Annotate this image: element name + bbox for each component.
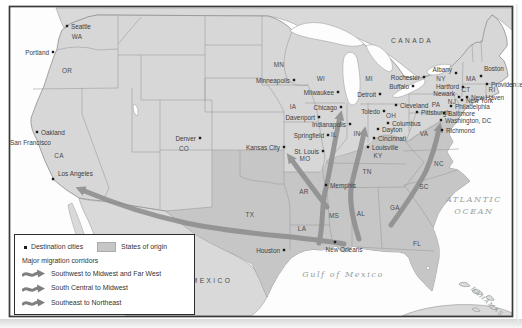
page-scan-edge	[0, 319, 522, 328]
corridor-arrow-icon	[22, 298, 46, 308]
state-label-ia: IA	[290, 103, 297, 110]
city-label-seattle: Seattle	[71, 23, 91, 30]
state-label-tn: TN	[362, 168, 371, 175]
legend-origin-label: States of origin	[121, 244, 167, 251]
city-dot-oakland	[36, 131, 38, 133]
legend-corridor-label: Southwest to Midwest and Far West	[51, 271, 161, 278]
city-dot-pittsburgh	[416, 111, 418, 113]
city-label-hartford: Hartford	[436, 83, 460, 90]
state-label-mn: MN	[274, 61, 285, 68]
city-label-indianapolis: Indianapolis	[312, 121, 346, 129]
legend-corridor-label: South Central to Midwest	[51, 285, 128, 292]
state-label-pa: PA	[432, 101, 441, 108]
city-dot-washington-dc	[440, 119, 442, 121]
city-label-cleveland: Cleveland	[400, 102, 429, 109]
city-label-new-orleans: New Orleans	[326, 246, 363, 253]
legend-corridor-item: Southeast to Northeast	[22, 298, 194, 308]
state-label-il: IL	[331, 131, 337, 138]
state-label-wi: WI	[317, 75, 325, 82]
state-label-la: LA	[298, 225, 307, 232]
city-dot-new-york	[461, 99, 463, 101]
city-dot-cincinnati	[373, 137, 375, 139]
city-dot-boston	[480, 75, 482, 77]
city-label-chicago: Chicago	[314, 104, 338, 112]
city-dot-springfield	[327, 134, 329, 136]
canada-label: CANADA	[391, 37, 433, 44]
state-label-ga: GA	[390, 204, 400, 211]
city-dot-portland	[52, 51, 54, 53]
city-dot-richmond	[441, 129, 443, 131]
city-label-toledo: Toledo	[361, 108, 380, 115]
state-label-va: VA	[420, 130, 429, 137]
atlantic-ocean-label-line2: OCEAN	[454, 207, 493, 216]
city-label-oakland: Oakland	[41, 129, 65, 136]
page-scan-edge	[516, 4, 519, 322]
city-dot-toledo	[383, 110, 385, 112]
city-label-kansas-city: Kansas City	[246, 144, 281, 152]
city-dot-hartford	[462, 86, 464, 88]
city-label-newark: Newark	[433, 90, 455, 97]
state-label-ca: CA	[54, 152, 64, 159]
state-label-in: IN	[354, 130, 361, 137]
corridor-arrow-icon	[22, 284, 46, 294]
city-dot-detroit	[379, 93, 381, 95]
city-dot-columbus	[387, 122, 389, 124]
city-dot-baltimore	[443, 112, 445, 114]
city-dot-milwaukee	[337, 91, 339, 93]
city-label-cincinnati: Cincinnati	[378, 135, 406, 142]
textbook-map-figure: WAORCACOMNWIMIIAILINOHPANYMARICTNJMOARLA…	[0, 0, 522, 328]
map-legend: Destination cities States of origin Majo…	[14, 234, 195, 315]
city-label-houston: Houston	[256, 247, 280, 254]
city-dot-kansas-city	[283, 146, 285, 148]
legend-corridor-label: Southeast to Northeast	[51, 300, 121, 307]
state-label-ms: MS	[329, 212, 339, 219]
atlantic-ocean-label-line1: ATLANTIC	[445, 195, 502, 204]
city-label-dayton: Dayton	[382, 126, 403, 134]
state-label-tx: TX	[246, 211, 255, 218]
city-label-san-francisco: San Francisco	[10, 139, 51, 146]
city-dot-memphis	[325, 184, 327, 186]
state-label-ar: AR	[299, 188, 309, 195]
city-dot-seattle	[66, 25, 68, 27]
city-label-springfield: Springfield	[294, 132, 325, 140]
destination-city-dot-icon	[24, 246, 27, 249]
corridor-arrow-icon	[22, 269, 46, 279]
city-dot-st-louis	[322, 150, 324, 152]
city-dot-new-orleans	[334, 241, 336, 243]
state-label-or: OR	[62, 67, 72, 74]
city-dot-newark	[458, 96, 460, 98]
city-dot-dayton	[377, 128, 379, 130]
city-dot-davenport	[318, 116, 320, 118]
city-dot-philadelphia	[450, 105, 452, 107]
city-dot-minneapolis	[293, 79, 295, 81]
state-label-sc: SC	[419, 183, 429, 190]
city-label-baltimore: Baltimore	[448, 110, 475, 117]
states-of-origin-swatch-icon	[97, 242, 116, 252]
state-label-mo: MO	[300, 155, 311, 162]
state-label-al: AL	[357, 210, 366, 217]
city-dot-cleveland	[395, 104, 397, 106]
city-label-richmond: Richmond	[446, 127, 475, 134]
legend-destination-label: Destination cities	[31, 244, 83, 251]
city-dot-indianapolis	[349, 123, 351, 125]
city-label-st-louis: St. Louis	[294, 148, 319, 155]
city-label-albany: Albany	[432, 66, 452, 74]
city-label-buffalo: Buffalo	[389, 83, 409, 90]
city-dot-providence	[486, 83, 488, 85]
city-label-portland: Portland	[25, 49, 49, 56]
city-label-rochester: Rochester	[391, 74, 421, 81]
city-dot-houston	[283, 249, 285, 251]
state-label-ny: NY	[436, 75, 446, 82]
mexico-label: MEXICO	[192, 277, 232, 284]
state-label-mi: MI	[365, 75, 373, 82]
state-label-fl: FL	[413, 240, 421, 247]
legend-symbols-row: Destination cities States of origin	[24, 242, 188, 252]
state-label-wa: WA	[72, 33, 83, 40]
city-dot-rochester	[423, 76, 425, 78]
city-label-los-angeles: Los Angeles	[58, 170, 93, 178]
city-label-davenport: Davenport	[286, 114, 316, 122]
city-label-memphis: Memphis	[330, 182, 356, 190]
legend-corridor-item: South Central to Midwest	[22, 284, 194, 294]
state-label-co: CO	[179, 145, 189, 152]
legend-corridor-item: Southwest to Midwest and Far West	[22, 269, 194, 279]
